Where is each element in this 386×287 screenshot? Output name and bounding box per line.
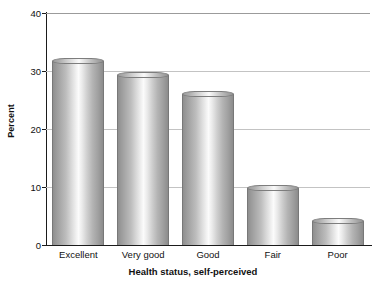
x-tick-label-fair: Fair — [265, 249, 281, 260]
y-tick-label-20: 20 — [30, 124, 41, 135]
bar-good — [182, 94, 234, 245]
y-tickmark-20 — [42, 129, 46, 130]
bar-top-ellipse — [312, 218, 364, 224]
y-tick-label-10: 10 — [30, 182, 41, 193]
bar-top-ellipse — [117, 72, 169, 78]
bar-top-ellipse — [52, 58, 104, 64]
bar-top-ellipse — [247, 185, 299, 191]
y-tick-label-40: 40 — [30, 8, 41, 19]
y-tickmark-10 — [42, 187, 46, 188]
bar-top-ellipse — [182, 91, 234, 97]
x-tick-label-excellent: Excellent — [59, 249, 98, 260]
x-tick-label-poor: Poor — [328, 249, 348, 260]
y-tick-label-0: 0 — [36, 240, 41, 251]
bar-fair — [247, 188, 299, 245]
y-tick-label-30: 30 — [30, 66, 41, 77]
x-tick-label-good: Good — [196, 249, 219, 260]
x-axis-line — [45, 245, 372, 246]
y-axis-title: Percent — [6, 86, 16, 156]
bar-very-good — [117, 75, 169, 245]
plot-area: 40 30 20 10 0 — [46, 13, 370, 245]
y-tickmark-30 — [42, 71, 46, 72]
x-axis-title: Health status, self-perceived — [0, 266, 386, 277]
gridline-40 — [46, 13, 370, 14]
y-tickmark-0 — [42, 245, 46, 246]
x-tick-label-very-good: Very good — [122, 249, 165, 260]
bar-chart: Percent 40 30 20 10 0 ExcellentVery good… — [0, 0, 386, 287]
y-tickmark-40 — [42, 13, 46, 14]
bar-poor — [312, 221, 364, 245]
bar-excellent — [52, 61, 104, 245]
